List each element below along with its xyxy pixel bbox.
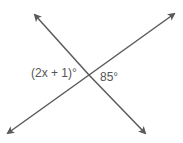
- angle-label-left: (2x + 1)°: [31, 66, 77, 80]
- line-ascending-2: [8, 75, 89, 133]
- angle-label-right: 85°: [100, 70, 118, 84]
- line-ascending: [89, 14, 174, 75]
- intersecting-lines: [0, 0, 183, 143]
